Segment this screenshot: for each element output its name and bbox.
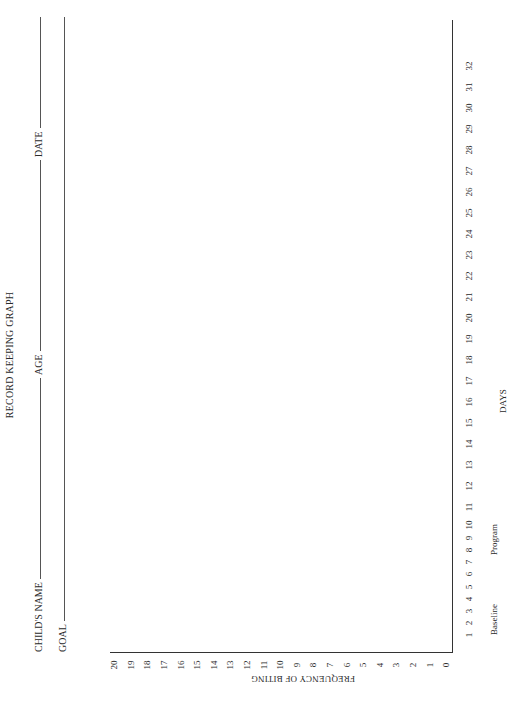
x-tick: 25: [464, 203, 474, 223]
plot-area[interactable]: [110, 20, 452, 652]
x-axis: [452, 20, 453, 653]
x-tick: 10: [464, 515, 474, 535]
x-axis-title: DAYS: [498, 389, 508, 413]
x-tick: 18: [464, 350, 474, 370]
date-label: DATE: [33, 128, 44, 160]
y-tick: 20: [109, 655, 119, 675]
y-tick: 11: [259, 655, 269, 675]
x-tick: 22: [464, 266, 474, 286]
date-field[interactable]: [28, 20, 40, 125]
childs-name-field[interactable]: [28, 386, 40, 586]
x-tick: 13: [464, 455, 474, 475]
y-tick: 10: [275, 655, 285, 675]
y-tick: 15: [192, 655, 202, 675]
x-tick: 20: [464, 308, 474, 328]
y-tick: 2: [408, 655, 418, 675]
y-tick: 18: [142, 655, 152, 675]
x-tick: 24: [464, 224, 474, 244]
record-keeping-form: RECORD KEEPING GRAPH CHILD'S NAME AGE DA…: [0, 0, 517, 710]
y-tick: 17: [159, 655, 169, 675]
x-tick: 28: [464, 140, 474, 160]
x-tick: 16: [464, 392, 474, 412]
y-axis-title: FREQUENCY OF BITING: [251, 674, 355, 684]
y-axis: [110, 652, 453, 653]
x-tick: 21: [464, 287, 474, 307]
y-tick: 13: [225, 655, 235, 675]
goal-field[interactable]: [52, 20, 64, 620]
y-tick: 0: [441, 655, 451, 675]
childs-name-label: CHILD'S NAME: [33, 579, 44, 655]
x-tick: 27: [464, 161, 474, 181]
baseline-label: Baseline: [489, 604, 499, 635]
x-tick: 17: [464, 371, 474, 391]
x-tick: 29: [464, 119, 474, 139]
x-tick: 11: [464, 497, 474, 517]
program-label: Program: [489, 524, 499, 555]
x-tick: 23: [464, 245, 474, 265]
y-tick: 7: [325, 655, 335, 675]
name-age-date-line: [40, 17, 41, 592]
form-title: RECORD KEEPING GRAPH: [4, 0, 15, 710]
y-tick: 3: [391, 655, 401, 675]
x-tick: 30: [464, 98, 474, 118]
y-tick: 9: [292, 655, 302, 675]
age-field[interactable]: [28, 170, 40, 350]
x-tick: 32: [464, 56, 474, 76]
y-tick: 4: [375, 655, 385, 675]
y-tick: 8: [308, 655, 318, 675]
y-tick: 6: [342, 655, 352, 675]
x-tick: 26: [464, 182, 474, 202]
y-tick: 1: [425, 655, 435, 675]
y-tick: 5: [358, 655, 368, 675]
x-tick: 12: [464, 476, 474, 496]
x-tick: 15: [464, 413, 474, 433]
age-label: AGE: [33, 351, 44, 378]
y-tick: 19: [126, 655, 136, 675]
x-tick: 19: [464, 329, 474, 349]
goal-line: [64, 17, 65, 625]
goal-label: GOAL: [57, 621, 68, 655]
x-tick: 14: [464, 434, 474, 454]
y-tick: 16: [176, 655, 186, 675]
y-tick: 12: [242, 655, 252, 675]
x-tick: 31: [464, 77, 474, 97]
y-tick: 14: [209, 655, 219, 675]
